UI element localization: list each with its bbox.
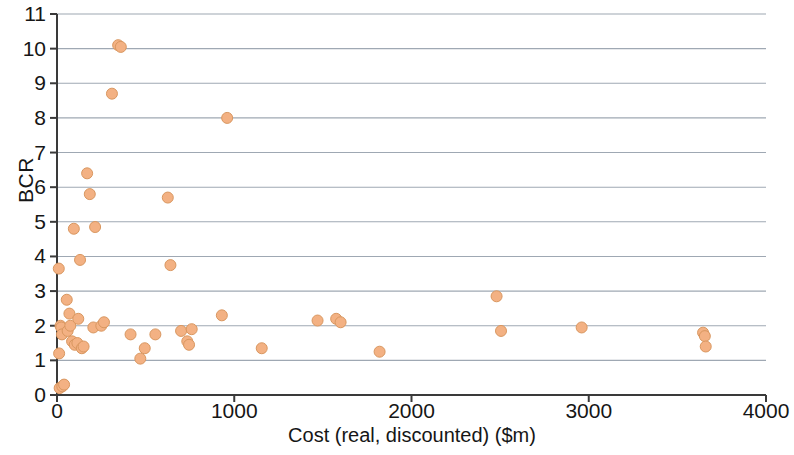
data-point — [335, 317, 346, 328]
data-point — [256, 343, 267, 354]
data-point — [135, 353, 146, 364]
data-point — [312, 315, 323, 326]
data-point — [106, 88, 117, 99]
data-point — [53, 263, 64, 274]
data-point — [75, 254, 86, 265]
data-point — [150, 329, 161, 340]
data-point — [165, 260, 176, 271]
data-point — [115, 41, 126, 52]
data-point — [186, 324, 197, 335]
plot-area — [0, 0, 794, 455]
axes — [50, 14, 766, 402]
data-point — [176, 325, 187, 336]
data-point — [576, 322, 587, 333]
data-point — [90, 222, 101, 233]
data-point — [222, 112, 233, 123]
data-point — [139, 343, 150, 354]
data-point — [61, 294, 72, 305]
data-point — [78, 341, 89, 352]
data-point — [98, 317, 109, 328]
gridlines — [57, 14, 766, 360]
data-point — [184, 339, 195, 350]
data-point — [84, 189, 95, 200]
series-0 — [53, 40, 711, 394]
data-point — [162, 192, 173, 203]
data-point — [374, 346, 385, 357]
data-point — [59, 379, 70, 390]
data-point — [68, 223, 79, 234]
scatter-chart: BCR Cost (real, discounted) ($m) 0123456… — [0, 0, 794, 455]
data-point — [73, 313, 84, 324]
data-point — [491, 291, 502, 302]
data-point — [699, 331, 710, 342]
data-point — [700, 341, 711, 352]
data-point — [496, 325, 507, 336]
data-point — [82, 168, 93, 179]
data-point — [54, 348, 65, 359]
data-point — [125, 329, 136, 340]
data-point — [216, 310, 227, 321]
